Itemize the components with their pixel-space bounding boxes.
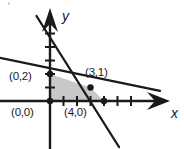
vertex-marker-4-0 xyxy=(101,98,107,104)
point-label-vertex: (3,1) xyxy=(85,66,108,78)
point-label-x-intercept: (4,0) xyxy=(64,106,87,118)
point-label-origin: (0,0) xyxy=(11,106,34,118)
point-label-y-intercept: (0,2) xyxy=(9,70,32,82)
vertex-marker-0-2 xyxy=(47,71,53,77)
vertex-marker-3-1 xyxy=(87,84,93,90)
x-axis-label: x xyxy=(171,105,178,121)
feasible-region-figure: (0,0) (0,2) (4,0) (3,1) y x xyxy=(0,0,184,149)
y-axis-label: y xyxy=(62,8,69,24)
vertex-marker-origin xyxy=(47,98,53,104)
